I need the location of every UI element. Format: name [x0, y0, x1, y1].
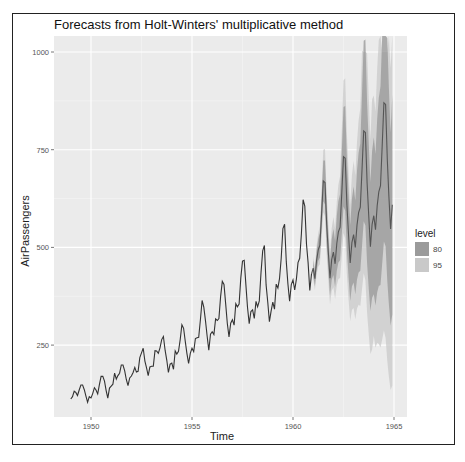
svg-text:500: 500 — [36, 243, 49, 252]
svg-text:1960: 1960 — [285, 422, 302, 431]
svg-text:250: 250 — [36, 341, 49, 350]
svg-text:1000: 1000 — [32, 48, 49, 57]
x-axis-ticks: 1950195519601965 — [83, 417, 403, 431]
legend-item-80: 80 — [415, 242, 442, 256]
svg-text:1950: 1950 — [83, 422, 100, 431]
y-axis-ticks: 2505007501000 — [32, 48, 54, 350]
svg-text:1965: 1965 — [386, 422, 403, 431]
legend-label-80: 80 — [433, 245, 442, 254]
legend: level 80 95 — [415, 228, 442, 274]
svg-text:1955: 1955 — [184, 422, 201, 431]
legend-title: level — [415, 228, 442, 239]
legend-swatch-95 — [415, 258, 429, 272]
svg-text:750: 750 — [36, 146, 49, 155]
legend-label-95: 95 — [433, 261, 442, 270]
legend-swatch-80 — [415, 242, 429, 256]
plot-area: 2505007501000 1950195519601965 — [0, 0, 465, 462]
x-axis-label: Time — [210, 430, 234, 442]
y-axis-label: AirPassengers — [19, 181, 31, 281]
legend-item-95: 95 — [415, 258, 442, 272]
